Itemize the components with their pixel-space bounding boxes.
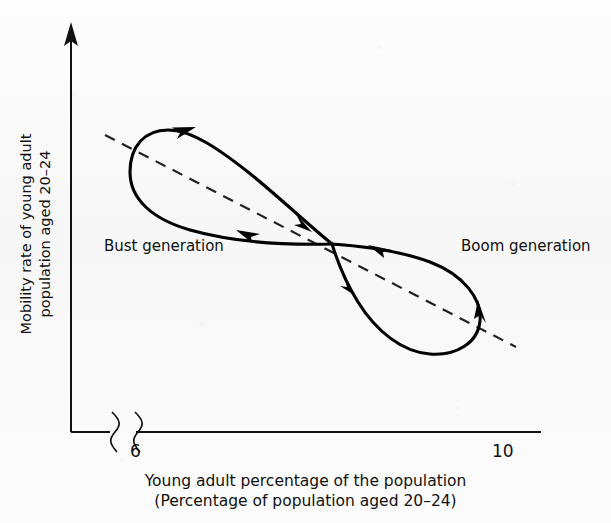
y-axis-title-line1: Mobility rate of young adult xyxy=(17,124,36,344)
annotation-bust-generation: Bust generation xyxy=(104,237,224,255)
annotation-boom-generation: Boom generation xyxy=(461,237,591,255)
y-axis-title-line2: population aged 20–24 xyxy=(36,124,55,344)
arrow-lower-left-icon xyxy=(340,275,356,296)
x-axis-title-line2: (Percentage of population aged 20–24) xyxy=(154,492,456,510)
direction-arrows xyxy=(172,125,486,323)
chart-canvas xyxy=(0,0,611,523)
y-axis-title: Mobility rate of young adult population … xyxy=(17,124,55,344)
y-axis xyxy=(64,22,78,432)
x-tick-label-10: 10 xyxy=(492,441,514,461)
x-tick-label-6: 6 xyxy=(130,441,141,461)
x-axis-title-line1: Young adult percentage of the population xyxy=(145,472,467,490)
